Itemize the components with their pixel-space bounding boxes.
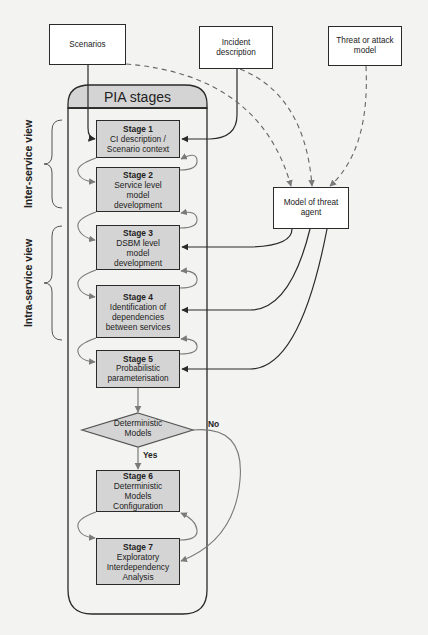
decision-label: Deterministic Models: [100, 418, 176, 438]
incident-description-label: Incident description: [206, 38, 266, 58]
stage-5-box: Stage 5 Probabilistic parameterisation: [96, 350, 180, 388]
decision-no-label: No: [208, 419, 219, 429]
stage-2-box: Stage 2 Service level model development: [96, 167, 180, 212]
scenarios-box: Scenarios: [49, 24, 126, 65]
stage-label: CI description / Scenario context: [98, 134, 178, 154]
threat-agent-box: Model of threat agent: [273, 187, 349, 229]
decision-yes-label: Yes: [143, 450, 157, 460]
intra-service-view-label: Intra-service view: [22, 237, 34, 329]
stage-number: Stage 6: [123, 471, 153, 481]
stage-3-box: Stage 3 DSBM level model development: [96, 225, 180, 270]
stage-number: Stage 5: [123, 354, 153, 364]
stage-label: Service level model development: [107, 180, 169, 210]
intra-service-brace: [44, 226, 62, 340]
scenarios-label: Scenarios: [69, 40, 105, 50]
stage-number: Stage 2: [123, 170, 153, 180]
stage-number: Stage 3: [123, 228, 153, 238]
pia-stages-title: PIA stages: [68, 85, 207, 108]
stage-label: DSBM level model development: [107, 238, 169, 268]
stage-label: Probabilistic parameterisation: [97, 364, 179, 384]
stage-7-box: Stage 7 Exploratory Interdependency Anal…: [96, 538, 180, 585]
incident-description-box: Incident description: [199, 26, 273, 69]
stage-4-box: Stage 4 Identification of dependencies b…: [96, 285, 180, 338]
stage-label: Identification of dependencies between s…: [99, 302, 177, 332]
stage-number: Stage 7: [123, 542, 153, 552]
threat-model-box: Threat or attack model: [328, 26, 402, 66]
stage-1-box: Stage 1 CI description / Scenario contex…: [96, 120, 180, 158]
stage-6-box: Stage 6 Deterministic Models Configurati…: [96, 470, 180, 512]
stage-label: Exploratory Interdependency Analysis: [97, 552, 179, 582]
stage-number: Stage 4: [123, 292, 153, 302]
inter-service-view-label: Inter-service view: [22, 118, 34, 210]
inter-service-brace: [44, 120, 62, 208]
diagram-connectors: [0, 0, 428, 635]
stage-label: Deterministic Models Configuration: [103, 481, 173, 511]
stage-number: Stage 1: [123, 124, 153, 134]
threat-agent-label: Model of threat agent: [277, 198, 345, 218]
threat-model-label: Threat or attack model: [334, 36, 396, 56]
